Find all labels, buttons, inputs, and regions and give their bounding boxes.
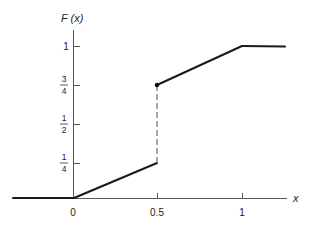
svg-text:4: 4 (62, 86, 67, 96)
x-axis-label: x (292, 192, 299, 204)
svg-text:4: 4 (62, 164, 67, 174)
svg-text:1: 1 (62, 152, 67, 162)
y-tick-label-3-4: 3 4 (60, 74, 68, 96)
y-tick-label-1: 1 (63, 41, 69, 52)
svg-text:3: 3 (62, 74, 67, 84)
x-tick-label-1: 1 (239, 207, 245, 218)
segment-rising-1 (74, 163, 157, 198)
cdf-curve (13, 46, 285, 198)
svg-text:2: 2 (62, 125, 67, 135)
segment-rising-2 (157, 46, 242, 85)
y-tick-label-1-4: 1 4 (60, 152, 68, 174)
segment-right-flat (242, 46, 285, 47)
y-axis-label: F (x) (61, 12, 84, 24)
y-tick-label-1-2: 1 2 (60, 113, 68, 135)
jump-point-dot (155, 83, 160, 88)
x-tick-label-0.5: 0.5 (150, 207, 164, 218)
svg-text:1: 1 (62, 113, 67, 123)
cdf-chart: F (x) x 0 0.5 1 1 3 4 1 2 1 4 (0, 0, 309, 226)
x-tick-label-0: 0 (70, 207, 76, 218)
